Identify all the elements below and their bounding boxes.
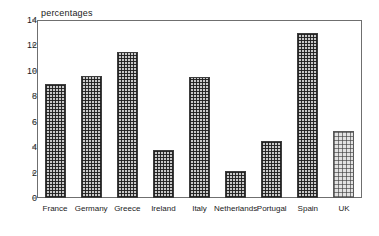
x-tick-label: Spain [298, 204, 318, 213]
bar-slot [225, 20, 246, 198]
y-axis: 02468101214 [0, 0, 37, 236]
y-tick-mark [32, 45, 36, 46]
y-tick-mark [32, 96, 36, 97]
x-tick-label: Portugal [257, 204, 287, 213]
y-tick-mark [32, 172, 36, 173]
x-tick-label: Greece [114, 204, 140, 213]
bar-slot [261, 20, 282, 198]
bar-slot [189, 20, 210, 198]
x-tick-label: Ireland [151, 204, 175, 213]
bar[interactable] [153, 150, 174, 198]
bar-chart: percentages 02468101214 FranceGermanyGre… [0, 0, 379, 236]
bar[interactable] [225, 171, 246, 198]
x-axis-labels: FranceGermanyGreeceIrelandItalyNetherlan… [37, 204, 362, 224]
x-tick-label: UK [338, 204, 349, 213]
bar-slot [45, 20, 66, 198]
y-tick-mark [32, 198, 36, 199]
x-tick-label: Italy [192, 204, 207, 213]
bar-slot [81, 20, 102, 198]
bars-layer [37, 20, 362, 198]
bar-slot [117, 20, 138, 198]
bar[interactable] [81, 76, 102, 198]
y-tick-mark [32, 20, 36, 21]
bar[interactable] [261, 141, 282, 198]
bar[interactable] [45, 84, 66, 198]
y-tick-mark [32, 70, 36, 71]
y-tick-mark [32, 147, 36, 148]
x-tick-label: Germany [75, 204, 108, 213]
bar-slot [333, 20, 354, 198]
bar[interactable] [297, 33, 318, 198]
bar-slot [297, 20, 318, 198]
bar[interactable] [117, 52, 138, 198]
bar[interactable] [333, 131, 354, 198]
y-axis-title: percentages [41, 8, 93, 18]
x-tick-label: France [43, 204, 68, 213]
bar-slot [153, 20, 174, 198]
bar[interactable] [189, 77, 210, 198]
y-tick-mark [32, 121, 36, 122]
x-tick-label: Netherlands [214, 204, 257, 213]
